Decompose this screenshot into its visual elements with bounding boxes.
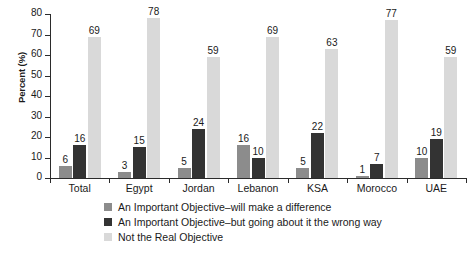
bar-value-label: 3 — [122, 160, 128, 171]
bar-chart: Percent (%) 01020304050607080 6166931578… — [0, 0, 469, 254]
bar-value-label: 78 — [148, 6, 159, 17]
bar: 7 — [370, 164, 383, 178]
y-axis-tick: 20 — [45, 137, 50, 138]
bar-group: 52459 — [178, 14, 220, 178]
plot-area: 01020304050607080 6166931578524591610695… — [50, 14, 466, 178]
y-axis-tick: 10 — [45, 158, 50, 159]
bar: 63 — [325, 49, 338, 178]
bar-value-label: 77 — [386, 8, 397, 19]
bar-value-label: 5 — [300, 156, 306, 167]
legend-swatch-icon — [104, 218, 112, 226]
bar: 22 — [311, 133, 324, 178]
y-axis-tick: 40 — [45, 96, 50, 97]
bar-value-label: 5 — [181, 156, 187, 167]
y-axis-tick: 70 — [45, 35, 50, 36]
bar-value-label: 63 — [326, 37, 337, 48]
bar: 78 — [147, 18, 160, 178]
x-axis-category-label: Lebanon — [228, 182, 287, 194]
bar: 16 — [73, 145, 86, 178]
bar-value-label: 19 — [431, 127, 442, 138]
y-axis-tick-label: 0 — [18, 171, 42, 182]
bar: 10 — [415, 158, 428, 179]
y-axis-tick: 30 — [45, 117, 50, 118]
bar-value-label: 7 — [374, 152, 380, 163]
bar-value-label: 69 — [267, 25, 278, 36]
bar: 3 — [118, 172, 131, 178]
legend-label: Not the Real Objective — [118, 231, 223, 243]
x-axis-category-label: Total — [50, 182, 109, 194]
x-axis-line — [50, 178, 466, 179]
bar-group: 61669 — [59, 14, 101, 178]
bar-value-label: 15 — [134, 135, 145, 146]
bar-value-label: 16 — [238, 133, 249, 144]
bar-value-label: 10 — [416, 146, 427, 157]
legend-label: An Important Objective–will make a diffe… — [118, 201, 331, 213]
y-axis-tick-label: 10 — [18, 151, 42, 162]
bar: 1 — [356, 176, 369, 178]
bar-value-label: 10 — [252, 146, 263, 157]
bar: 69 — [88, 37, 101, 178]
bar: 15 — [133, 147, 146, 178]
legend-label: An Important Objective–but going about i… — [118, 216, 382, 228]
bar-value-label: 24 — [193, 117, 204, 128]
bar: 19 — [430, 139, 443, 178]
y-axis-tick: 80 — [45, 14, 50, 15]
bar: 69 — [266, 37, 279, 178]
bar: 10 — [252, 158, 265, 179]
bar: 5 — [178, 168, 191, 178]
bar-value-label: 22 — [312, 121, 323, 132]
chart-legend: An Important Objective–will make a diffe… — [104, 200, 444, 245]
bar-value-label: 16 — [74, 133, 85, 144]
y-axis-tick-label: 30 — [18, 110, 42, 121]
y-axis-tick-label: 70 — [18, 28, 42, 39]
bar-value-label: 59 — [208, 45, 219, 56]
x-axis-tick — [466, 178, 467, 183]
x-axis-category-label: Jordan — [169, 182, 228, 194]
y-axis-tick-label: 40 — [18, 89, 42, 100]
bar-group: 31578 — [118, 14, 160, 178]
y-axis-tick-label: 20 — [18, 130, 42, 141]
y-axis-tick-label: 60 — [18, 48, 42, 59]
bar: 6 — [59, 166, 72, 178]
bar-group: 52263 — [296, 14, 338, 178]
legend-item[interactable]: Not the Real Objective — [104, 230, 444, 244]
legend-item[interactable]: An Important Objective–will make a diffe… — [104, 200, 444, 214]
y-axis-tick: 50 — [45, 76, 50, 77]
bar-value-label: 6 — [62, 154, 68, 165]
legend-swatch-icon — [104, 203, 112, 211]
x-axis-category-label: UAE — [407, 182, 466, 194]
bar-group: 1777 — [356, 14, 398, 178]
bar: 5 — [296, 168, 309, 178]
legend-swatch-icon — [104, 233, 112, 241]
bar: 59 — [444, 57, 457, 178]
bar-value-label: 59 — [445, 45, 456, 56]
x-axis-category-label: KSA — [288, 182, 347, 194]
legend-item[interactable]: An Important Objective–but going about i… — [104, 215, 444, 229]
y-axis-tick-label: 80 — [18, 7, 42, 18]
y-axis-tick: 60 — [45, 55, 50, 56]
x-axis-category-label: Morocco — [347, 182, 406, 194]
y-axis-tick-label: 50 — [18, 69, 42, 80]
bar-value-label: 1 — [360, 164, 366, 175]
bar: 24 — [192, 129, 205, 178]
x-axis-category-label: Egypt — [109, 182, 168, 194]
y-axis-line — [50, 14, 51, 178]
bar-group: 101959 — [415, 14, 457, 178]
bar: 77 — [385, 20, 398, 178]
bar: 16 — [237, 145, 250, 178]
bar: 59 — [207, 57, 220, 178]
bar-group: 161069 — [237, 14, 279, 178]
bar-value-label: 69 — [89, 25, 100, 36]
